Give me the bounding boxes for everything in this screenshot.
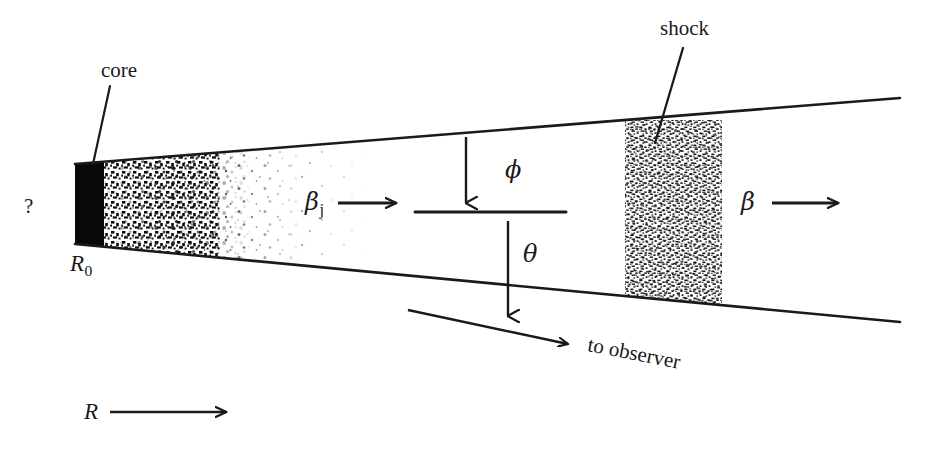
r-zero-label: R0 (70, 252, 92, 279)
shock-band (625, 120, 722, 310)
diagram-canvas (0, 0, 925, 460)
beta-jet-subscript: j (319, 200, 324, 219)
shock-label: shock (660, 18, 709, 39)
r-zero-subscript: 0 (85, 262, 93, 279)
to-observer-arrow (408, 310, 568, 344)
core-leader-line (93, 86, 110, 164)
jet-lower-boundary (75, 244, 900, 322)
theta-angle-label: θ (523, 242, 537, 266)
phi-angle-label: ϕ (505, 158, 521, 182)
beta-jet-symbol: β (305, 188, 319, 216)
r-zero-symbol: R (70, 251, 84, 276)
jet-upper-boundary (75, 98, 900, 164)
question-mark-label: ? (24, 196, 33, 217)
beta-label: β (741, 190, 755, 214)
beta-jet-label: βj (305, 190, 324, 219)
core-block (75, 160, 104, 250)
jet-schematic-figure: core shock ? R0 βj β ϕ θ R to observer (0, 0, 925, 460)
radius-axis-label: R (84, 400, 98, 423)
jet-interior-texture (75, 120, 722, 310)
core-label: core (101, 60, 137, 81)
core-grain-faint (150, 150, 370, 260)
